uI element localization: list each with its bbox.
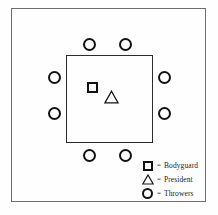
circle-icon-thrower-top-left — [83, 38, 96, 51]
triangle-icon-president — [104, 90, 119, 104]
square-icon-bodyguard — [87, 82, 98, 93]
legend-equals-president: = — [157, 173, 161, 186]
legend-equals-throwers: = — [157, 187, 161, 200]
legend-item-bodyguard: = Bodyguard — [141, 159, 207, 172]
circle-icon-thrower-left-upper — [48, 71, 61, 84]
triangle-icon — [141, 173, 154, 186]
legend-equals-bodyguard: = — [157, 159, 161, 172]
circle-icon-thrower-right-lower — [158, 107, 171, 120]
legend-item-president: = President — [141, 173, 207, 186]
legend-label-president: President — [164, 173, 193, 186]
circle-icon-thrower-left-lower — [48, 107, 61, 120]
square-icon — [141, 159, 154, 172]
legend-label-throwers: Throwers — [164, 187, 194, 200]
circle-icon — [141, 187, 154, 200]
legend-label-bodyguard: Bodyguard — [164, 159, 198, 172]
circle-icon-thrower-bottom-right — [119, 149, 132, 162]
circle-icon-thrower-bottom-left — [83, 149, 96, 162]
seating-diagram: = Bodyguard = President = Throwers — [0, 0, 218, 215]
legend-item-throwers: = Throwers — [141, 187, 207, 200]
circle-icon-thrower-right-upper — [158, 71, 171, 84]
circle-icon-thrower-top-right — [119, 38, 132, 51]
legend: = Bodyguard = President = Throwers — [141, 159, 207, 201]
